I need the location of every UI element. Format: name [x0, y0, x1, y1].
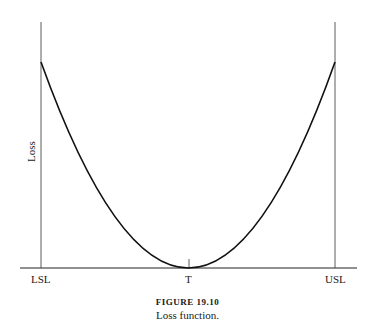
usl-label: USL: [325, 274, 346, 285]
loss-curve: [41, 62, 335, 268]
target-label: T: [185, 274, 192, 285]
figure-number: FIGURE 19.10: [0, 297, 375, 307]
lsl-label: LSL: [31, 274, 51, 285]
y-axis-label: Loss: [25, 141, 37, 162]
figure-caption: Loss function.: [0, 309, 375, 321]
